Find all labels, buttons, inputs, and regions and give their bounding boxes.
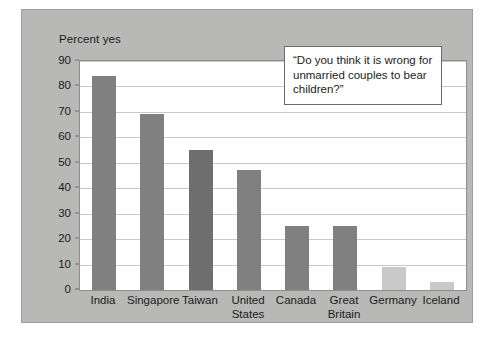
bar bbox=[333, 226, 357, 290]
x-axis-tick-label-line: States bbox=[224, 308, 272, 322]
x-axis-tick-label: GreatBritain bbox=[320, 294, 368, 321]
x-axis-tick-label-line: India bbox=[79, 294, 127, 308]
x-axis-tick-label-line: Great bbox=[320, 294, 368, 308]
y-axis-tick-label: 70 bbox=[58, 105, 71, 117]
y-axis-tick-label: 50 bbox=[58, 156, 71, 168]
y-axis-tick-label: 30 bbox=[58, 207, 71, 219]
x-axis-tick-label-line: Singapore bbox=[127, 294, 175, 308]
x-axis-tick-label: Singapore bbox=[127, 294, 175, 308]
y-axis-title: Percent yes bbox=[59, 33, 121, 45]
question-callout: “Do you think it is wrong for unmarried … bbox=[284, 46, 442, 105]
x-axis-tick-group: IndiaSingaporeTaiwanUnitedStatesCanadaGr… bbox=[79, 294, 467, 330]
x-axis-tick-label-line: Germany bbox=[369, 294, 417, 308]
y-axis-tick-label: 20 bbox=[58, 232, 71, 244]
y-axis-tick-label: 60 bbox=[58, 130, 71, 142]
y-axis-tick-label: 90 bbox=[58, 54, 71, 66]
y-axis-tick-label: 80 bbox=[58, 79, 71, 91]
chart-panel: Percent yes 0102030405060708090 IndiaSin… bbox=[21, 9, 473, 323]
bar bbox=[189, 150, 213, 290]
bar bbox=[92, 76, 116, 290]
x-axis-tick-label-line: Canada bbox=[272, 294, 320, 308]
y-axis-tick-label: 10 bbox=[58, 258, 71, 270]
x-axis-tick-label-line: United bbox=[224, 294, 272, 308]
x-axis-tick-label-line: Britain bbox=[320, 308, 368, 322]
bar bbox=[430, 282, 454, 290]
x-axis-tick-label: Taiwan bbox=[176, 294, 224, 308]
bar bbox=[140, 114, 164, 290]
y-axis-tick-group: 0102030405060708090 bbox=[22, 60, 79, 291]
bar bbox=[237, 170, 261, 290]
y-axis-tick-label: 40 bbox=[58, 181, 71, 193]
y-axis-tick-label: 0 bbox=[65, 283, 71, 295]
x-axis-tick-label: Canada bbox=[272, 294, 320, 308]
x-axis-tick-label-line: Taiwan bbox=[176, 294, 224, 308]
x-axis-tick-label: India bbox=[79, 294, 127, 308]
bar bbox=[382, 267, 406, 290]
x-axis-tick-label: Iceland bbox=[417, 294, 465, 308]
x-axis-tick-label: UnitedStates bbox=[224, 294, 272, 321]
chart-figure: Percent yes 0102030405060708090 IndiaSin… bbox=[0, 0, 491, 344]
x-axis-tick-label-line: Iceland bbox=[417, 294, 465, 308]
bar bbox=[285, 226, 309, 290]
x-axis-tick-label: Germany bbox=[369, 294, 417, 308]
